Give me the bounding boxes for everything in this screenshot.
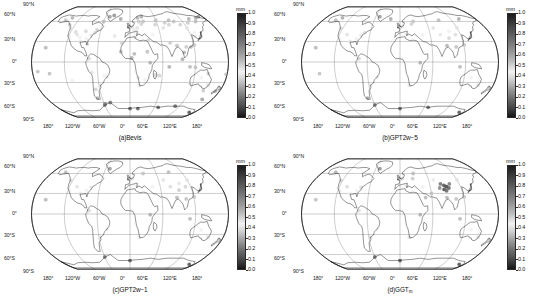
- colorbar-tick-0-8: 0.8: [518, 183, 525, 188]
- station-point: [457, 110, 461, 114]
- panel-caption-b-text: (b)GPT2w−5: [382, 134, 417, 141]
- station-point: [447, 182, 451, 186]
- panel-d: 90°N 60°N 30°N 0° 30°S 60°S 90°S 180° 12…: [270, 152, 539, 303]
- station-point: [154, 18, 158, 22]
- station-point: [455, 178, 459, 182]
- colorbar-tick-mark: [246, 13, 248, 14]
- station-point: [168, 41, 172, 45]
- lon-label-120w: 120°W: [65, 124, 80, 129]
- station-point: [36, 70, 40, 74]
- colorbar-tick-mark: [246, 34, 248, 35]
- station-point: [430, 192, 434, 196]
- colorbar-tick-0-3: 0.3: [518, 236, 525, 241]
- station-point: [201, 89, 205, 93]
- station-point: [153, 23, 157, 27]
- colorbar-tick-1-0: 1.0: [518, 162, 525, 167]
- panel-caption-c-text: (c)GPT2w−1: [112, 286, 147, 293]
- station-point: [113, 34, 117, 38]
- station-point: [187, 262, 191, 266]
- station-point: [181, 57, 185, 61]
- colorbar-tick-mark: [516, 55, 518, 56]
- lat-label-30s: 30°S: [274, 81, 285, 86]
- station-point: [194, 66, 198, 70]
- station-point: [447, 36, 451, 40]
- station-point: [314, 198, 318, 202]
- station-point: [185, 26, 189, 30]
- station-point: [314, 46, 318, 50]
- colorbar-tick-0-4: 0.4: [248, 73, 255, 78]
- lat-label-60n: 60°N: [274, 12, 285, 17]
- colorbar-tick-mark: [246, 186, 248, 187]
- station-point: [438, 186, 442, 190]
- station-point: [108, 15, 112, 19]
- colorbar-tick-mark: [516, 23, 518, 24]
- lat-label-0: 0°: [282, 59, 287, 64]
- colorbar-unit-label-c: mm: [236, 158, 245, 164]
- colorbar-tick-0-0: 0.0: [518, 115, 525, 120]
- station-point: [178, 23, 182, 27]
- colorbar-tick-mark: [246, 207, 248, 208]
- lon-label-60w: 60°W: [363, 124, 375, 129]
- station-point: [431, 26, 435, 30]
- colorbar-tick-mark: [246, 55, 248, 56]
- station-point: [457, 17, 461, 21]
- colorbar-tick-mark: [246, 118, 248, 119]
- colorbar-tick-mark: [516, 196, 518, 197]
- station-point: [98, 83, 102, 87]
- colorbar-ticks-d: 1.00.90.80.70.60.50.40.30.20.10.0: [518, 164, 538, 271]
- station-point: [458, 65, 462, 69]
- colorbar-ticks-c: 1.00.90.80.70.60.50.40.30.20.10.0: [248, 164, 268, 271]
- colorbar-tick-mark: [246, 107, 248, 108]
- station-point: [75, 185, 79, 189]
- colorbar-tick-0-8: 0.8: [248, 31, 255, 36]
- colorbar-tick-mark: [516, 118, 518, 119]
- station-point: [141, 20, 145, 24]
- station-point: [455, 26, 459, 30]
- station-point: [161, 26, 165, 30]
- station-point: [457, 262, 461, 266]
- colorbar-gradient-d: [507, 165, 516, 270]
- lon-label-180w: 180°: [313, 124, 323, 129]
- colorbar-tick-0-6: 0.6: [248, 204, 255, 209]
- colorbar-tick-1-0: 1.0: [248, 10, 255, 15]
- colorbar-tick-mark: [246, 76, 248, 77]
- colorbar-gradient-c: [237, 165, 246, 270]
- lon-label-120e: 120°E: [163, 124, 177, 129]
- colorbar-tick-mark: [516, 65, 518, 66]
- lat-label-30s: 30°S: [4, 81, 15, 86]
- lon-label-60w: 60°W: [93, 276, 105, 281]
- station-point: [148, 213, 152, 217]
- colorbar-tick-mark: [246, 86, 248, 87]
- station-point: [431, 178, 435, 182]
- colorbar-tick-0-1: 0.1: [248, 105, 255, 110]
- station-point: [177, 181, 181, 185]
- station-point: [458, 217, 462, 221]
- figure-root: 90°N 60°N 30°N 0° 30°S 60°S 90°S 180° 12…: [0, 0, 539, 303]
- colorbar-tick-mark: [516, 107, 518, 108]
- colorbar-tick-0-5: 0.5: [518, 215, 525, 220]
- lat-label-60n: 60°N: [4, 12, 15, 17]
- lat-label-0: 0°: [12, 211, 17, 216]
- lon-label-180e: 180°: [462, 124, 472, 129]
- station-point: [145, 50, 149, 54]
- lat-label-60s: 60°S: [4, 256, 15, 261]
- panel-b: 90°N 60°N 30°N 0° 30°S 60°S 90°S 180° 12…: [270, 0, 539, 151]
- lon-label-180e: 180°: [462, 276, 472, 281]
- station-point: [437, 18, 441, 22]
- colorbar-unit-label-a: mm: [236, 6, 245, 12]
- station-point: [167, 170, 171, 174]
- station-point: [70, 79, 74, 83]
- colorbar-b: mm 1.00.90.80.70.60.50.40.30.20.10.0: [506, 12, 538, 124]
- colorbar-tick-0-7: 0.7: [248, 194, 255, 199]
- station-point: [141, 172, 145, 176]
- station-point: [184, 45, 188, 49]
- station-point: [368, 83, 372, 87]
- colorbar-tick-mark: [516, 34, 518, 35]
- colorbar-tick-mark: [516, 228, 518, 229]
- colorbar-tick-mark: [516, 97, 518, 98]
- station-point: [85, 189, 89, 193]
- station-point: [143, 78, 147, 82]
- panel-caption-d: (d)GGTm: [300, 286, 500, 293]
- colorbar-tick-mark: [516, 13, 518, 14]
- world-map-svg-a: [30, 6, 230, 118]
